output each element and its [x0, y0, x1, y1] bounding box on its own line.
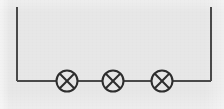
- lamp-symbol-2: [103, 71, 124, 92]
- lamp-symbol-3: [152, 71, 173, 92]
- lamp-symbol-1: [57, 71, 78, 92]
- circuit-diagram-canvas: [0, 0, 224, 109]
- circuit-diagram-svg: [0, 0, 224, 109]
